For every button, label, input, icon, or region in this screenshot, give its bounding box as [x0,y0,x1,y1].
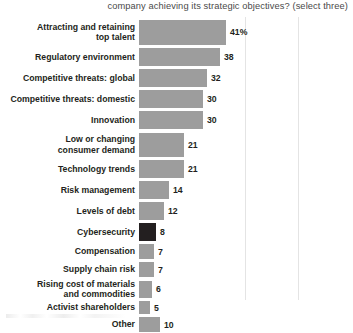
bar-row: Supply chain risk7 [0,261,353,278]
value-label: 41% [230,27,247,37]
bar [139,317,160,332]
bar-row: Rising cost of materialsand commodities6 [0,279,353,299]
value-label: 12 [168,206,178,216]
bar [139,133,184,157]
value-label: 38 [224,52,234,62]
plot-area: Attracting and retainingtop talent41%Reg… [0,17,353,300]
category-label: Cybersecurity [0,227,139,238]
value-label: 32 [211,73,221,83]
category-label-line: Competitive threats: domestic [0,94,135,105]
bar [139,69,207,87]
chart-title: company achieving its strategic objectiv… [0,1,348,11]
bar-row: Attracting and retainingtop talent41% [0,18,353,46]
bar-row: Competitive threats: global32 [0,68,353,88]
bar [139,160,184,178]
category-label-line: Other [0,319,135,330]
category-label-line: and commodities [0,289,135,299]
category-label-line: consumer demand [0,145,135,155]
category-label-line: top talent [0,32,135,42]
category-label: Attracting and retainingtop talent [0,22,139,42]
category-label-line: Rising cost of materials [0,279,135,289]
category-label: Competitive threats: global [0,73,139,84]
value-label: 10 [164,320,174,330]
bar [139,90,203,108]
category-label: Compensation [0,246,139,257]
category-label: Risk management [0,185,139,196]
category-label: Regulatory environment [0,52,139,63]
value-label: 30 [207,115,217,125]
category-label: Rising cost of materialsand commodities [0,279,139,299]
bar-row: Levels of debt12 [0,201,353,221]
value-label: 14 [173,185,183,195]
category-label-line: Cybersecurity [0,227,135,238]
bar [139,281,152,298]
category-label-line: Attracting and retaining [0,22,135,32]
bar [139,111,203,129]
bar-highlighted [139,223,156,241]
bar-row: Activist shareholders5 [0,300,353,315]
bar-row: Competitive threats: domestic30 [0,89,353,109]
bar-row: Other10 [0,316,353,333]
value-label: 5 [154,303,159,313]
bar [139,301,150,314]
category-label-line: Levels of debt [0,206,135,217]
category-label-line: Low or changing [0,134,135,144]
category-label-line: Innovation [0,115,135,126]
bar [139,181,169,199]
bar [139,244,154,259]
bar-row: Technology trends21 [0,159,353,179]
category-label-line: Compensation [0,246,135,257]
footer-text-clipped [6,314,126,318]
category-label: Supply chain risk [0,264,139,275]
category-label-line: Activist shareholders [0,302,135,313]
category-label: Low or changingconsumer demand [0,134,139,154]
category-label-line: Technology trends [0,164,135,175]
category-label-line: Competitive threats: global [0,73,135,84]
category-label: Other [0,319,139,330]
bar [139,48,220,66]
bar-row: Risk management14 [0,180,353,200]
value-label: 21 [188,164,198,174]
category-label: Activist shareholders [0,302,139,313]
bar-row: Cybersecurity8 [0,222,353,242]
bar [139,262,154,277]
bar-row: Compensation7 [0,243,353,260]
bar-row: Regulatory environment38 [0,47,353,67]
value-label: 7 [158,247,163,257]
category-label: Levels of debt [0,206,139,217]
value-label: 8 [160,227,165,237]
bar-row: Low or changingconsumer demand21 [0,131,353,158]
bar-row: Innovation30 [0,110,353,130]
category-label-line: Regulatory environment [0,52,135,63]
value-label: 21 [188,140,198,150]
category-label-line: Supply chain risk [0,264,135,275]
value-label: 6 [156,284,161,294]
category-label: Technology trends [0,164,139,175]
category-label-line: Risk management [0,185,135,196]
category-label: Competitive threats: domestic [0,94,139,105]
value-label: 7 [158,265,163,275]
bar [139,20,226,45]
value-label: 30 [207,94,217,104]
category-label: Innovation [0,115,139,126]
bar [139,202,164,220]
